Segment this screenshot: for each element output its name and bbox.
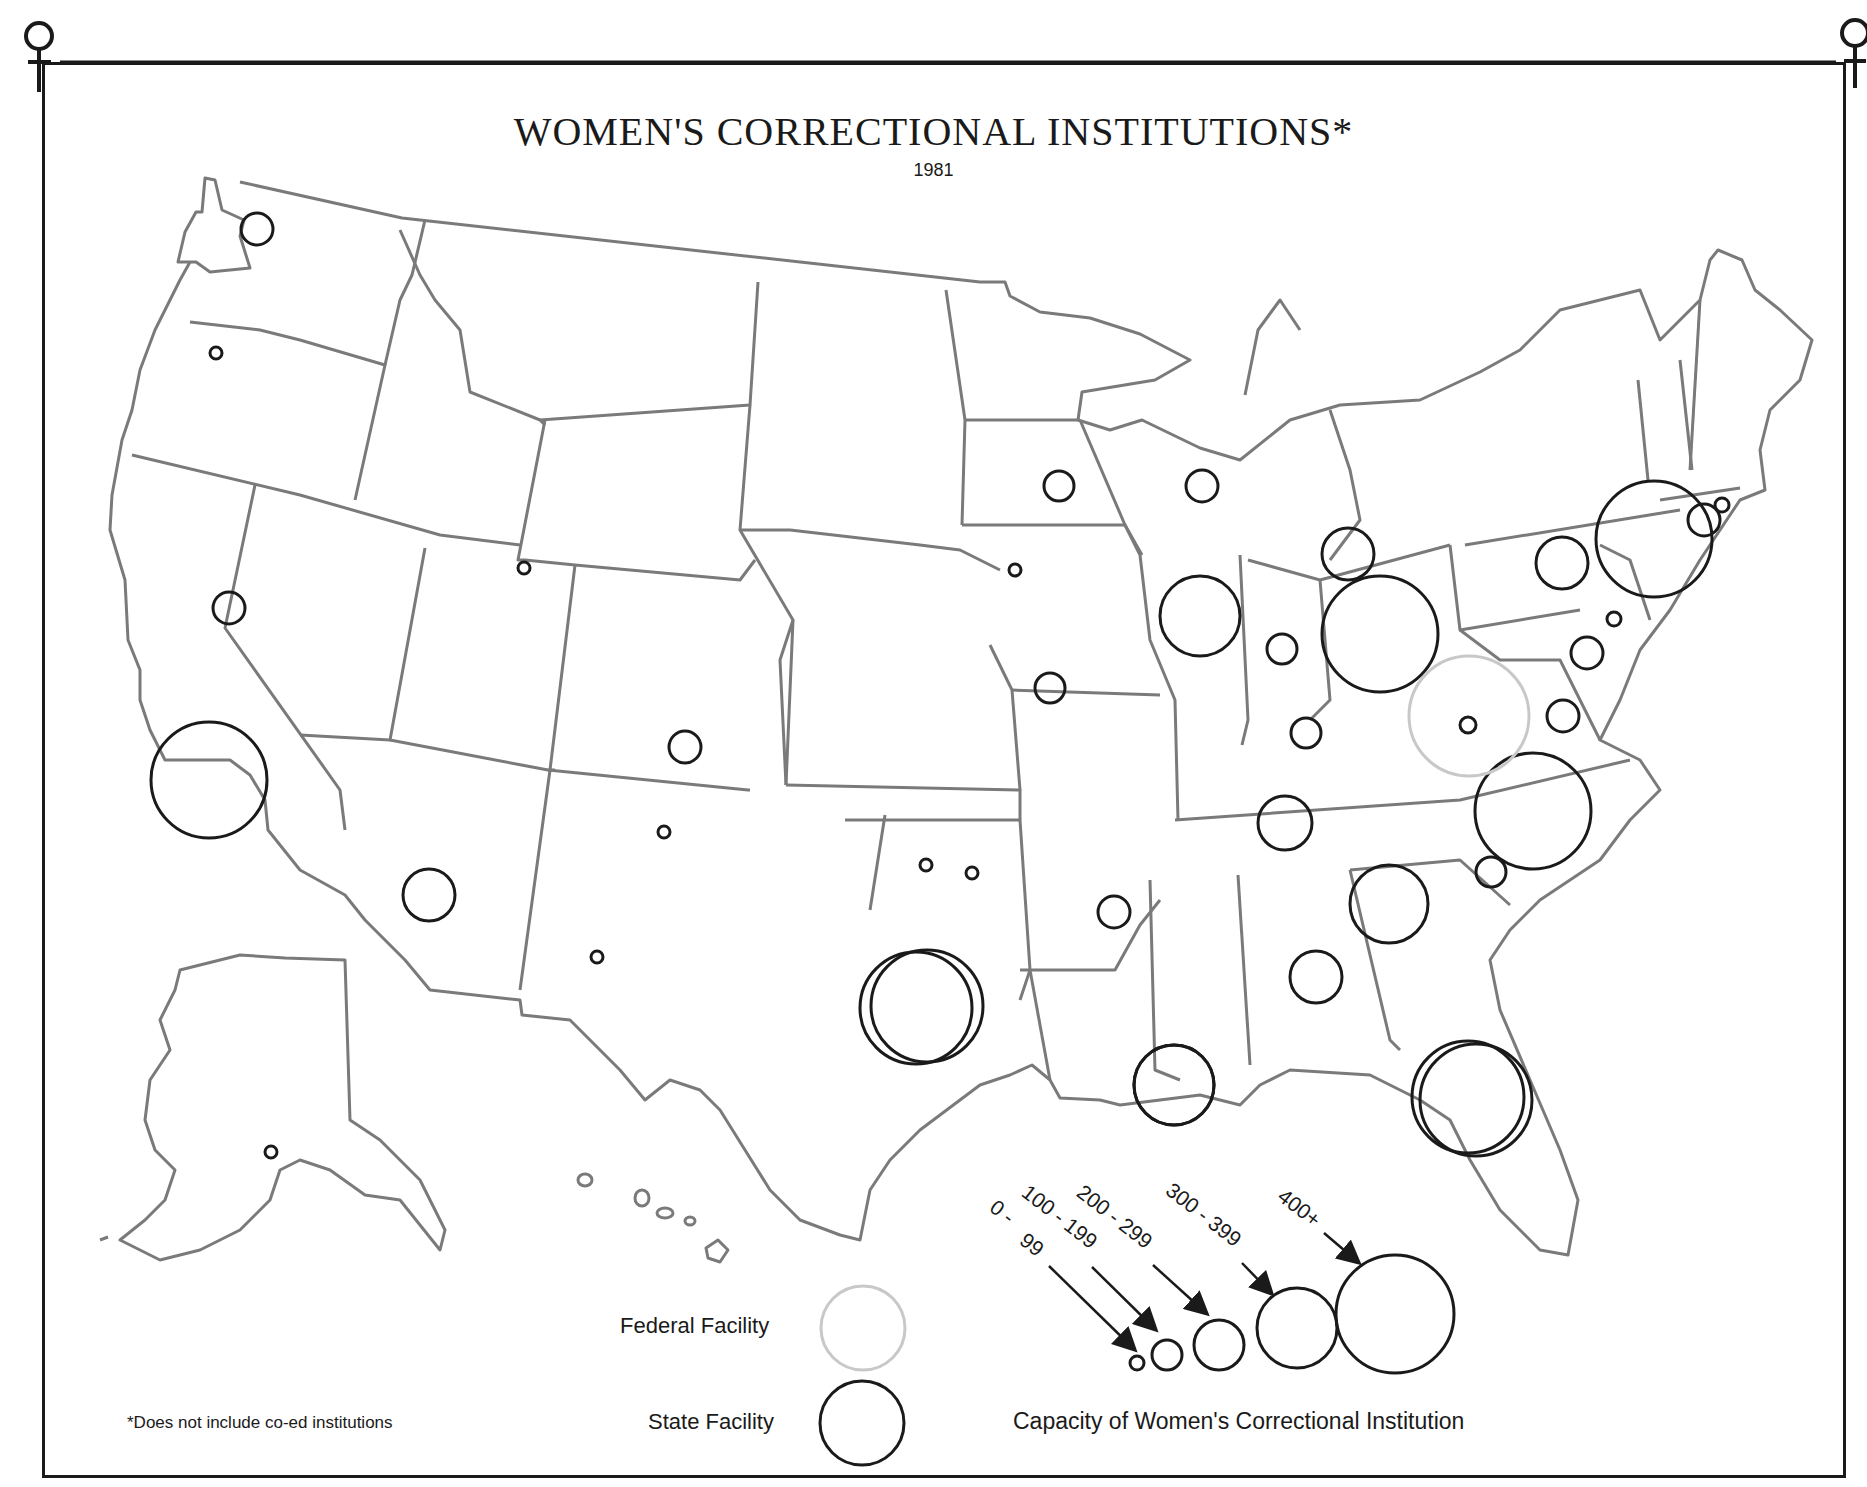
- facility-iowa: [1009, 564, 1021, 576]
- facility-tennessee: [1258, 796, 1312, 850]
- facility-mississippi: [1134, 1045, 1214, 1125]
- facility-virginia: [1547, 700, 1579, 732]
- facility-delaware: [1607, 612, 1621, 626]
- facility-alabama: [1290, 951, 1342, 1003]
- legend-federal-label: Federal Facility: [620, 1313, 769, 1339]
- facility-oregon: [210, 347, 222, 359]
- map-canvas: [0, 0, 1867, 1487]
- facility-massachusetts: [1715, 498, 1729, 512]
- footnote: *Does not include co-ed institutions: [127, 1413, 393, 1433]
- legend-state-label: State Facility: [648, 1409, 774, 1435]
- facility-washington: [241, 213, 273, 245]
- facility-kentucky: [1291, 718, 1321, 748]
- legend-circle-200-299: [1194, 1320, 1244, 1370]
- legend-capacity-title: Capacity of Women's Correctional Institu…: [1013, 1408, 1464, 1435]
- facility-colorado: [669, 731, 701, 763]
- venus-symbol-left-icon: [26, 23, 52, 92]
- state-borders: [100, 178, 1812, 1262]
- facility-oklahoma-east: [966, 867, 978, 879]
- facility-maryland: [1571, 637, 1603, 669]
- facility-california: [151, 722, 267, 838]
- venus-symbol-right-icon: [1842, 20, 1867, 88]
- legend-circle-100-199: [1152, 1340, 1182, 1370]
- facility-alaska: [265, 1146, 277, 1158]
- facility-minnesota: [1044, 471, 1074, 501]
- legend-state-symbol: [820, 1381, 904, 1465]
- facility-west-virginia: [1460, 717, 1476, 733]
- legend-federal-symbol: [821, 1286, 905, 1370]
- alaska-outline: [120, 955, 445, 1260]
- facility-ohio: [1322, 576, 1438, 692]
- legend-circle-0-99: [1130, 1356, 1144, 1370]
- facility-missouri: [1035, 673, 1065, 703]
- arrow-100-199: [1092, 1267, 1155, 1329]
- facility-oklahoma-west: [920, 859, 932, 871]
- legend-circle-300-399: [1257, 1288, 1337, 1368]
- arrow-300-399: [1242, 1263, 1271, 1293]
- facility-idaho: [518, 562, 530, 574]
- facility-florida-1: [1412, 1041, 1524, 1153]
- legend-capacity-symbols: [1130, 1255, 1454, 1373]
- facility-new-mexico-south: [591, 951, 603, 963]
- facility-arkansas: [1098, 896, 1130, 928]
- facility-florida-2: [1420, 1044, 1532, 1156]
- facility-pennsylvania: [1536, 537, 1588, 589]
- conus-outline: [178, 178, 250, 272]
- arrow-0-99: [1049, 1266, 1134, 1349]
- arrow-400-plus: [1324, 1233, 1358, 1262]
- legend-circle-400-plus: [1336, 1255, 1454, 1373]
- facility-new-york: [1596, 481, 1712, 597]
- facility-texas-2: [871, 950, 983, 1062]
- facility-wisconsin: [1186, 470, 1218, 502]
- facility-georgia: [1350, 865, 1428, 943]
- facility-new-mexico-north: [658, 826, 670, 838]
- facility-arizona: [403, 869, 455, 921]
- facility-texas-1: [860, 952, 972, 1064]
- facility-indiana: [1267, 634, 1297, 664]
- facility-illinois: [1160, 576, 1240, 656]
- arrow-200-299: [1153, 1265, 1206, 1313]
- facility-south-carolina: [1476, 857, 1506, 887]
